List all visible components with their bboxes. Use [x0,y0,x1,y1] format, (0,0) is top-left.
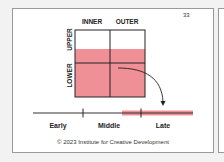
quadrant-diagram [0,0,224,162]
timeline-label-middle: Middle [89,122,129,129]
timeline-label-late: Late [143,122,183,129]
timeline-label-early: Early [38,122,78,129]
arrow-head-icon [161,101,166,106]
copyright-text: © 2023 Institute for Creative Developmen… [20,139,206,145]
